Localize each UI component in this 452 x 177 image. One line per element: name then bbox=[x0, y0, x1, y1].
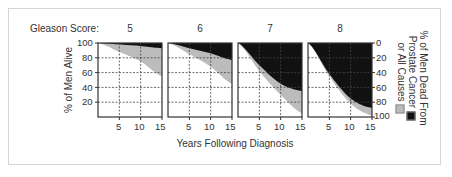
survival-plots bbox=[0, 0, 452, 177]
